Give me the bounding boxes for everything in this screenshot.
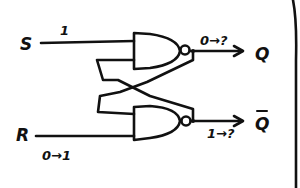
q-label: Q: [255, 44, 269, 64]
sr-latch-diagram: S 1 R 0→1 0→? Q 1→? Q: [0, 0, 300, 188]
q-transition-label: 0→?: [200, 33, 228, 48]
qbar-transition-label: 1→?: [207, 126, 235, 141]
s-value-label: 1: [60, 23, 69, 38]
inversion-bubble-top: [181, 46, 190, 55]
page-border-right: [293, 0, 296, 188]
junction-q: [191, 49, 195, 53]
s-input-wire: [41, 41, 134, 43]
nand-gate-top: [134, 33, 190, 69]
r-value-label: 0→1: [42, 148, 71, 163]
s-label: S: [20, 34, 32, 54]
nand-gate-bottom: [134, 106, 191, 140]
qbar-label: Q: [255, 114, 269, 134]
inversion-bubble-bottom: [182, 117, 191, 126]
junction-qbar: [191, 119, 195, 123]
r-label: R: [16, 125, 29, 145]
